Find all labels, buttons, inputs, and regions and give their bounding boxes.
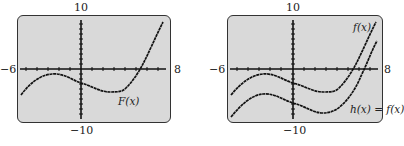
left-plot: [0, 0, 195, 146]
left-xmin-label: −6: [0, 64, 16, 75]
left-graph-panel: 10 −6 8 −10 F(x): [0, 0, 195, 146]
curve-F: [21, 22, 163, 95]
curve-h-label: h(x) = f(x): [350, 104, 404, 115]
right-ymax-label: 10: [286, 2, 300, 13]
left-xmax-label: 8: [174, 64, 181, 75]
right-xmin-label: −6: [209, 64, 225, 75]
left-ymax-label: 10: [74, 2, 88, 13]
left-ymin-label: −10: [70, 125, 93, 136]
curve-f-label: f(x): [353, 22, 371, 33]
right-graph-panel: 10 −6 8 −10 f(x) h(x) = f(x): [195, 0, 395, 146]
right-ymin-label: −10: [283, 125, 306, 136]
right-xmax-label: 8: [384, 64, 391, 75]
curve-F-label: F(x): [118, 96, 139, 107]
